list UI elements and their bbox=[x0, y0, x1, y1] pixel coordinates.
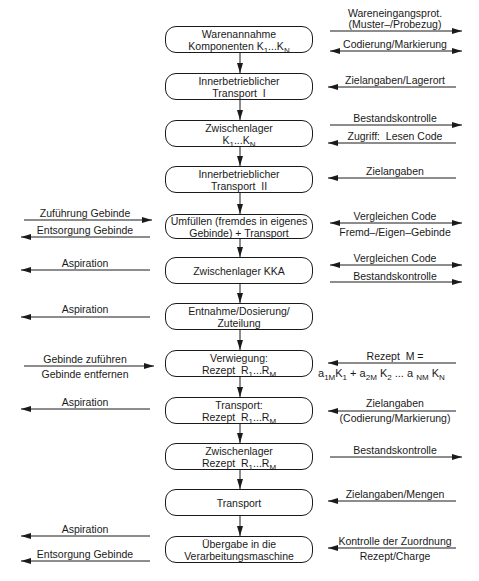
label-zufuehrung-gebinde: Zuführung Gebinde bbox=[20, 207, 150, 219]
label-aspiration-2: Aspiration bbox=[20, 303, 150, 315]
step-uebergabe: Übergabe in die Verarbeitungsmaschine bbox=[165, 536, 313, 563]
label-zielangaben-2: Zielangaben bbox=[330, 397, 460, 409]
label-aspiration-3: Aspiration bbox=[20, 396, 150, 408]
step-label: Innerbetrieblicher bbox=[198, 168, 279, 180]
step-sublabel: K1...KN bbox=[222, 134, 255, 146]
step-label: Transport bbox=[217, 497, 262, 509]
step-zwischenlager-kka: Zwischenlager KKA bbox=[165, 257, 313, 284]
label-zugriff: Zugriff: Lesen Code bbox=[330, 130, 460, 142]
step-sublabel: Transport II bbox=[211, 180, 267, 192]
step-transport-1: Innerbetrieblicher Transport I bbox=[165, 73, 313, 100]
label-bestandskontrolle-3: Bestandskontrolle bbox=[330, 444, 460, 456]
step-transport: Transport bbox=[165, 489, 313, 516]
label-gebinde-zufuehren: Gebinde zuführen bbox=[20, 353, 150, 365]
label-bestandskontrolle-2: Bestandskontrolle bbox=[330, 270, 460, 282]
step-sublabel: Gebinde) + Transport bbox=[189, 227, 289, 239]
step-label: Transport: bbox=[215, 399, 262, 411]
step-warenannahme: Warenannahme Komponenten K1...KN bbox=[165, 26, 313, 53]
label-zielangaben: Zielangaben bbox=[330, 165, 460, 177]
step-label: Zwischenlager bbox=[205, 445, 273, 457]
step-zwischenlager-k: Zwischenlager K1...KN bbox=[165, 120, 313, 147]
label-aspiration-1: Aspiration bbox=[20, 257, 150, 269]
step-label: Umfüllen (fremdes in eigenes bbox=[171, 215, 308, 227]
step-label: Innerbetrieblicher bbox=[198, 75, 279, 87]
step-sublabel: Verarbeitungsmaschine bbox=[184, 550, 294, 562]
label-vergleichen-code: Vergleichen Code bbox=[330, 210, 460, 222]
step-sublabel: Rezept R1...RM bbox=[202, 457, 276, 469]
label-codierung: Codierung/Markierung bbox=[330, 38, 460, 50]
label-bestandskontrolle: Bestandskontrolle bbox=[330, 112, 460, 124]
label-entsorgung-gebinde: Entsorgung Gebinde bbox=[20, 224, 150, 236]
step-label: Zwischenlager KKA bbox=[193, 265, 285, 277]
label-muster-probezug: (Muster–/Probezug) bbox=[330, 18, 460, 30]
step-label: Zwischenlager bbox=[205, 122, 273, 134]
step-entnahme: Entnahme/Dosierung/ Zuteilung bbox=[165, 303, 313, 330]
label-zielangaben-mengen: Zielangaben/Mengen bbox=[330, 488, 460, 500]
step-zwischenlager-rezept: Zwischenlager Rezept R1...RM bbox=[165, 443, 313, 470]
step-label: Verwiegung: bbox=[210, 352, 268, 364]
step-label: Warenannahme bbox=[202, 28, 276, 40]
label-rezept-formula: a1MK1 + a2M K2 ... a NM KN bbox=[318, 367, 445, 379]
label-gebinde-entfernen: Gebinde entfernen bbox=[20, 368, 150, 380]
step-transport-2: Innerbetrieblicher Transport II bbox=[165, 166, 313, 193]
step-umfuellen: Umfüllen (fremdes in eigenes Gebinde) + … bbox=[165, 214, 313, 239]
label-kontrolle-zuordnung: Kontrolle der Zuordnung bbox=[330, 535, 460, 547]
step-sublabel: Zuteilung bbox=[217, 317, 260, 329]
step-sublabel: Rezept R1...RM bbox=[202, 411, 276, 423]
label-codierung-markierung: (Codierung/Markierung) bbox=[330, 412, 460, 424]
label-rezept-charge: Rezept/Charge bbox=[330, 550, 460, 562]
step-sublabel: Rezept R1...RM bbox=[202, 364, 276, 376]
step-verwiegung: Verwiegung: Rezept R1...RM bbox=[165, 350, 313, 377]
step-sublabel: Transport I bbox=[212, 87, 265, 99]
step-label: Entnahme/Dosierung/ bbox=[188, 305, 290, 317]
label-vergleichen-code-2: Vergleichen Code bbox=[330, 252, 460, 264]
label-entsorgung-gebinde-2: Entsorgung Gebinde bbox=[20, 548, 150, 560]
label-rezept-m: Rezept M = bbox=[330, 350, 460, 362]
step-label: Übergabe in die bbox=[202, 538, 276, 550]
step-sublabel: Komponenten K1...KN bbox=[188, 40, 289, 52]
label-aspiration-4: Aspiration bbox=[20, 523, 150, 535]
label-zielangaben-lagerort: Zielangaben/Lagerort bbox=[330, 74, 460, 86]
step-transport-rezept: Transport: Rezept R1...RM bbox=[165, 397, 313, 424]
label-fremd-eigen: Fremd–/Eigen–Gebinde bbox=[330, 226, 460, 238]
